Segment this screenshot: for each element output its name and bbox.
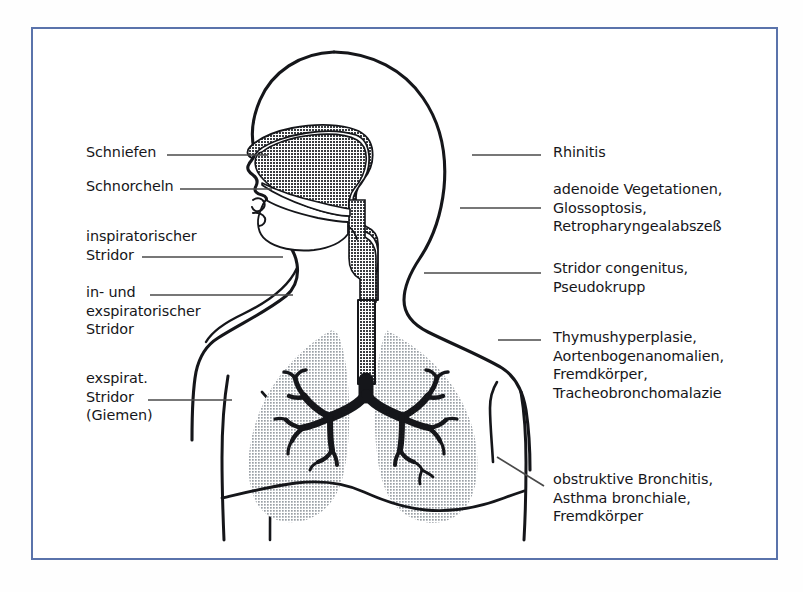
label-schnorcheln: Schnorcheln (86, 177, 174, 196)
label-stridor-congenitus: Stridor congenitus, Pseudokrupp (553, 259, 688, 296)
label-inspiratorischer-stridor: inspiratorischer Stridor (86, 227, 197, 264)
label-adenoide-vegetationen: adenoide Vegetationen, Glossoptosis, Ret… (553, 180, 722, 236)
label-obstruktive-bronchitis: obstruktive Bronchitis, Asthma bronchial… (553, 470, 713, 526)
label-exspiratorischer-stridor-giemen: exspirat. Stridor (Giemen) (86, 369, 152, 425)
label-in-und-exspiratorischer-stridor: in- und exspiratorischer Stridor (86, 283, 201, 339)
figure-root: Schniefen Schnorcheln inspiratorischer S… (0, 0, 803, 592)
label-thymushyperplasie: Thymushyperplasie, Aortenbogenanomalien,… (553, 328, 724, 402)
label-schniefen: Schniefen (86, 143, 156, 162)
label-rhinitis: Rhinitis (553, 143, 606, 162)
